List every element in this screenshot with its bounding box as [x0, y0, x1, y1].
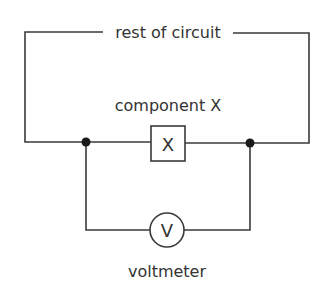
top-wire-right	[233, 33, 309, 143]
voltmeter-wire-left	[86, 142, 150, 230]
voltmeter-label: voltmeter	[128, 262, 207, 281]
component-x-symbol: X	[162, 134, 174, 155]
circuit-diagram: X V rest of circuit component X voltmete…	[0, 0, 322, 287]
voltmeter-wire-right	[184, 143, 250, 230]
junction-left	[82, 138, 91, 147]
top-wire-left	[25, 32, 103, 142]
voltmeter-symbol: V	[161, 220, 174, 241]
junction-right	[246, 139, 255, 148]
rest-of-circuit-label: rest of circuit	[115, 23, 220, 42]
component-x-label: component X	[115, 96, 222, 115]
